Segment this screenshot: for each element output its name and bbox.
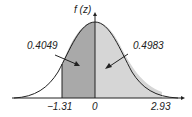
tick-label-neg: −1.31 xyxy=(47,101,72,112)
tick-label-pos: 2.93 xyxy=(151,101,170,112)
tick-label-zero: 0 xyxy=(92,101,98,112)
y-axis-label: f (z) xyxy=(74,4,91,15)
left-area-label: 0.4049 xyxy=(27,40,58,51)
normal-curve-diagram xyxy=(0,0,192,117)
right-area-label: 0.4983 xyxy=(133,40,164,51)
right-shaded-area xyxy=(95,22,162,98)
